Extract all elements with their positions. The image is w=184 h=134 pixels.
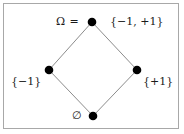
label-top-set: {−1, +1} [110,16,163,27]
node-top-full-set [88,18,97,27]
label-bottom-empty-set: ∅ [72,110,82,121]
node-left-minus-one [45,66,54,75]
label-left-set: {−1} [11,76,41,87]
label-right-set: {+1} [143,76,173,87]
node-bottom-empty-set [89,112,98,121]
node-right-plus-one [133,66,142,75]
power-set-lattice-figure: Ω = {−1, +1} {−1} {+1} ∅ [0,0,184,134]
label-omega-equals: Ω = [56,16,79,27]
edge-left-bottom [49,70,93,116]
edge-top-right [92,22,137,70]
edge-right-bottom [93,70,137,116]
edge-top-left [49,22,92,70]
